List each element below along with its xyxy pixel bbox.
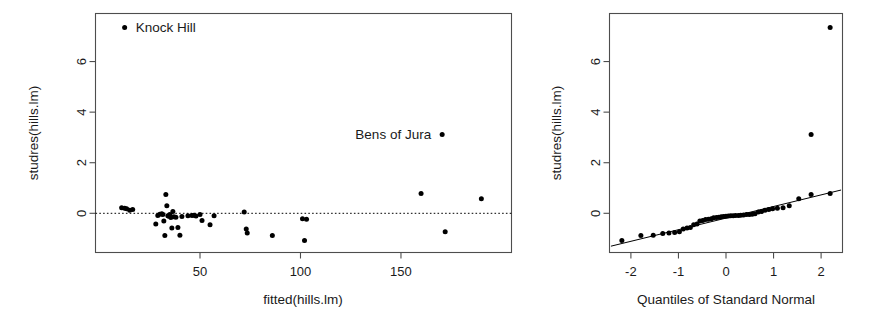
point-annotation-label: Bens of Jura <box>355 127 431 142</box>
data-point <box>170 209 175 214</box>
left-panel-tick-labels: 501001500246 <box>74 58 412 279</box>
data-point-outlier <box>809 132 814 137</box>
data-point <box>440 132 445 137</box>
x-tick-label: 0 <box>722 264 729 279</box>
data-point <box>245 231 250 236</box>
y-tick-label: 0 <box>74 210 89 217</box>
data-point <box>672 230 677 235</box>
data-point <box>419 191 424 196</box>
left-panel-point-annotations: Knock HillBens of Jura <box>136 20 432 142</box>
data-point <box>242 210 247 215</box>
data-point <box>164 203 169 208</box>
data-point <box>198 212 203 217</box>
data-point <box>809 192 814 197</box>
y-tick-label: 6 <box>588 58 603 65</box>
right-x-axis-title: Quantiles of Standard Normal <box>637 292 815 307</box>
data-point <box>775 206 780 211</box>
data-point <box>302 238 307 243</box>
right-panel-axis-ticks <box>604 62 822 259</box>
data-point <box>173 215 178 220</box>
data-point <box>130 207 135 212</box>
data-point <box>304 217 309 222</box>
x-tick-label: 150 <box>390 264 412 279</box>
data-point <box>163 192 168 197</box>
data-point <box>619 238 624 243</box>
y-tick-label: 0 <box>588 210 603 217</box>
data-point <box>122 25 127 30</box>
data-point <box>169 225 174 230</box>
right-panel-data-points <box>619 25 832 243</box>
data-point <box>200 218 205 223</box>
x-tick-label: 1 <box>770 264 777 279</box>
data-point-outlier <box>828 25 833 30</box>
right-panel-tick-labels: -2-10120246 <box>588 58 825 279</box>
residuals-vs-fitted-plot: 501001500246 Knock HillBens of Jura fitt… <box>0 0 530 330</box>
data-point <box>770 206 775 211</box>
data-point <box>208 222 213 227</box>
residual-diagnostics-figure: 501001500246 Knock HillBens of Jura fitt… <box>0 0 882 330</box>
data-point <box>479 196 484 201</box>
y-tick-label: 2 <box>588 159 603 166</box>
data-point <box>177 233 182 238</box>
data-point <box>162 233 167 238</box>
point-annotation-label: Knock Hill <box>136 20 196 35</box>
x-tick-label: 2 <box>817 264 824 279</box>
data-point <box>660 231 665 236</box>
y-tick-label: 6 <box>74 58 89 65</box>
data-point <box>787 203 792 208</box>
data-point <box>212 213 217 218</box>
data-point <box>638 233 643 238</box>
data-point <box>781 205 786 210</box>
data-point <box>828 191 833 196</box>
data-point <box>666 231 671 236</box>
data-point <box>175 225 180 230</box>
data-point <box>153 221 158 226</box>
data-point <box>161 218 166 223</box>
data-point <box>179 214 184 219</box>
normal-qq-panel: -2-10120246 Quantiles of Standard Normal… <box>530 0 882 330</box>
data-point <box>651 233 656 238</box>
data-point <box>160 212 165 217</box>
x-tick-label: -1 <box>673 264 685 279</box>
left-y-axis-title: studres(hills.lm) <box>26 86 41 181</box>
right-y-axis-title: studres(hills.lm) <box>549 86 564 181</box>
y-tick-label: 4 <box>588 109 603 116</box>
left-x-axis-title: fitted(hills.lm) <box>263 292 343 307</box>
normal-qq-plot: -2-10120246 Quantiles of Standard Normal… <box>530 0 882 330</box>
y-tick-label: 2 <box>74 159 89 166</box>
y-tick-label: 4 <box>74 109 89 116</box>
data-point <box>270 233 275 238</box>
x-tick-label: -2 <box>625 264 637 279</box>
x-tick-label: 50 <box>193 264 207 279</box>
data-point <box>443 229 448 234</box>
x-tick-label: 100 <box>290 264 312 279</box>
residuals-vs-fitted-panel: 501001500246 Knock HillBens of Jura fitt… <box>0 0 530 330</box>
data-point <box>796 196 801 201</box>
